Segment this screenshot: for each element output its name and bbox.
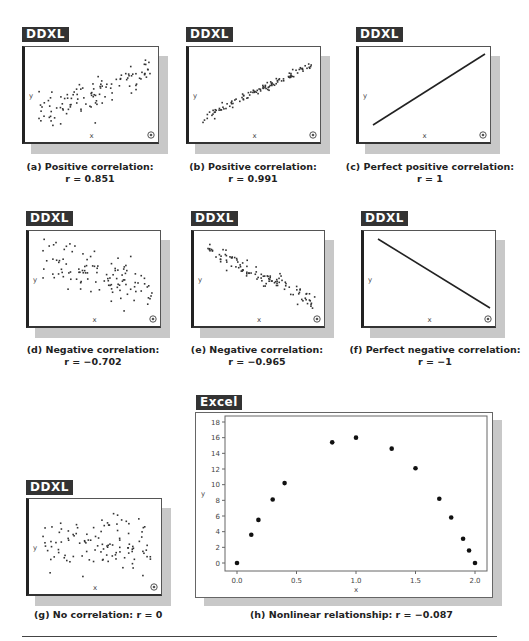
- ddxl-tag: DDXL: [22, 27, 69, 42]
- corner-icon: [314, 316, 320, 322]
- scatter-plot-b: yx: [186, 46, 321, 144]
- excel-tag: Excel: [196, 395, 242, 410]
- x-tick-label: 0.0: [231, 577, 242, 585]
- y-tick-label: 16: [211, 434, 220, 442]
- y-tick-label: 18: [211, 419, 220, 427]
- data-point: [354, 435, 359, 440]
- y-axis-label: y: [368, 276, 372, 284]
- data-point: [256, 518, 261, 523]
- scatter-plot-g: yx: [26, 498, 162, 596]
- caption-h: (h) Nonlinear relationship: r = −0.087: [250, 609, 520, 621]
- y-tick-label: 6: [216, 513, 221, 521]
- excel-chart-h: 0246810121416180.00.51.01.52.0yx: [195, 412, 493, 598]
- data-point: [389, 446, 394, 451]
- y-tick-label: 2: [216, 544, 220, 552]
- caption-d: (d) Negative correlation: r = −0.702: [8, 344, 178, 368]
- y-axis-label: y: [198, 276, 202, 284]
- data-point: [249, 533, 254, 538]
- y-axis-label: y: [201, 490, 205, 498]
- y-axis-label: y: [33, 544, 37, 552]
- data-point: [461, 536, 466, 541]
- corner-icon: [485, 316, 491, 322]
- scatter-plot-e: yx: [191, 230, 325, 328]
- caption-e: (e) Negative correlation: r = −0.965: [172, 344, 342, 368]
- y-axis-label: y: [33, 276, 37, 284]
- y-tick-label: 4: [216, 528, 221, 536]
- caption-f: (f) Perfect negative correlation: r = −1: [340, 344, 529, 368]
- y-tick-label: 8: [216, 497, 220, 505]
- scatter-plot-d: yx: [26, 230, 161, 328]
- corner-icon: [150, 316, 156, 322]
- x-axis-label: x: [257, 316, 261, 324]
- data-point: [437, 496, 442, 501]
- y-tick-label: 12: [211, 466, 220, 474]
- y-axis-label: y: [193, 92, 197, 100]
- data-point: [413, 466, 418, 471]
- x-tick-label: 2.0: [469, 577, 480, 585]
- line-plot-f: yx: [361, 230, 496, 328]
- corner-icon: [310, 132, 316, 138]
- x-tick-label: 1.0: [350, 577, 361, 585]
- corner-icon: [151, 584, 157, 590]
- data-point: [282, 481, 287, 486]
- x-axis-label: x: [428, 316, 432, 324]
- caption-a: (a) Positive correlation: r = 0.851: [5, 161, 175, 185]
- x-tick-label: 0.5: [291, 577, 302, 585]
- caption-b: (b) Positive correlation: r = 0.991: [168, 161, 338, 185]
- x-tick-label: 1.5: [410, 577, 421, 585]
- caption-c: (c) Perfect positive correlation: r = 1: [335, 161, 525, 185]
- caption-g: (g) No correlation: r = 0: [34, 609, 214, 621]
- scatter-plot-a: yx: [22, 46, 159, 144]
- data-point: [449, 515, 454, 520]
- x-axis-label: x: [90, 132, 94, 140]
- x-axis-label: x: [253, 132, 257, 140]
- data-point: [473, 561, 478, 566]
- y-tick-label: 14: [211, 450, 220, 458]
- ddxl-tag: DDXL: [26, 211, 73, 226]
- ddxl-tag: DDXL: [186, 27, 233, 42]
- line-plot-c: yx: [356, 46, 491, 144]
- data-point: [270, 497, 275, 502]
- x-axis-label: x: [93, 316, 97, 324]
- y-tick-label: 0: [216, 560, 220, 568]
- y-axis-label: y: [29, 92, 33, 100]
- bottom-rule: [22, 636, 497, 637]
- x-axis-label: x: [93, 584, 97, 592]
- ddxl-tag: DDXL: [361, 211, 408, 226]
- data-point: [467, 548, 472, 553]
- ddxl-tag: DDXL: [356, 27, 403, 42]
- ddxl-tag: DDXL: [26, 480, 73, 495]
- ddxl-tag: DDXL: [191, 211, 238, 226]
- x-axis-label: x: [354, 586, 358, 594]
- y-axis-label: y: [363, 92, 367, 100]
- corner-icon: [480, 132, 486, 138]
- y-tick-label: 10: [211, 481, 220, 489]
- data-point: [330, 440, 335, 445]
- x-axis-label: x: [423, 132, 427, 140]
- data-point: [235, 561, 240, 566]
- corner-icon: [148, 132, 154, 138]
